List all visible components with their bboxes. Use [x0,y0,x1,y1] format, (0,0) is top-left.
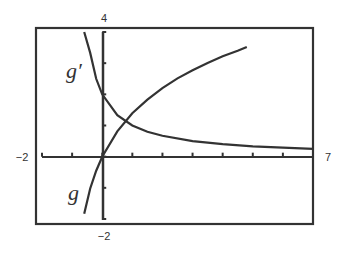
g-label: g [68,180,79,205]
graph-window: 4 −2 −2 7 g′ g [0,0,345,254]
axis-ticks [42,32,313,219]
g-prime-label: g′ [66,58,83,83]
curve-g [84,47,247,214]
x-min-label: −2 [16,151,29,163]
y-min-label: −2 [98,230,111,242]
y-max-label: 4 [101,12,107,24]
x-max-label: 7 [325,151,331,163]
